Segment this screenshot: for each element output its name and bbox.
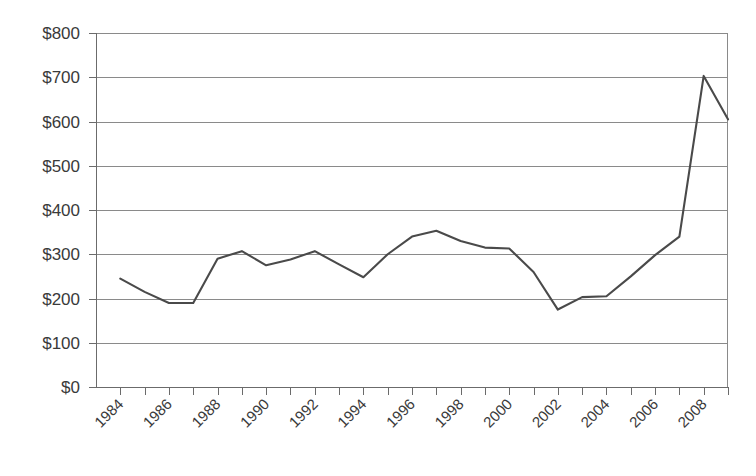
- y-tick-label: $0: [61, 378, 80, 397]
- x-tick-label: 1990: [237, 395, 273, 431]
- x-tick-label: 2000: [480, 395, 516, 431]
- x-tick-label: 2008: [674, 395, 710, 431]
- line-chart: $0$100$200$300$400$500$600$700$800 19841…: [0, 0, 756, 476]
- chart-container: $0$100$200$300$400$500$600$700$800 19841…: [0, 0, 756, 476]
- data-series: [120, 76, 728, 310]
- y-tick-label: $100: [42, 334, 80, 353]
- y-tick-label: $500: [42, 157, 80, 176]
- x-tick-label: 1998: [431, 395, 467, 431]
- x-tick-label: 2004: [577, 395, 613, 431]
- x-axis-tick-labels: 1984198619881990199219941996199820002002…: [91, 395, 710, 431]
- x-tick-label: 1988: [188, 395, 224, 431]
- y-tick-label: $400: [42, 201, 80, 220]
- x-tick-label: 2006: [626, 395, 662, 431]
- y-tick-label: $600: [42, 113, 80, 132]
- x-tick-label: 1986: [139, 395, 175, 431]
- x-tick-label: 2002: [528, 395, 564, 431]
- y-tick-label: $800: [42, 24, 80, 43]
- gridlines: [96, 34, 728, 388]
- y-tick-label: $700: [42, 68, 80, 87]
- y-axis-tick-marks: [89, 34, 96, 388]
- x-tick-label: 1994: [334, 395, 370, 431]
- y-tick-label: $200: [42, 290, 80, 309]
- x-tick-label: 1984: [91, 395, 127, 431]
- series-line-0: [120, 76, 728, 310]
- y-tick-label: $300: [42, 245, 80, 264]
- y-axis-tick-labels: $0$100$200$300$400$500$600$700$800: [42, 24, 80, 397]
- x-tick-label: 1996: [383, 395, 419, 431]
- x-tick-label: 1992: [285, 395, 321, 431]
